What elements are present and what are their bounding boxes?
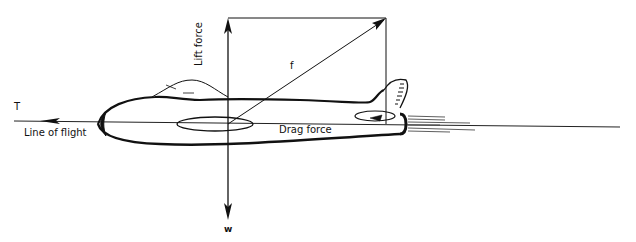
jet-exhaust xyxy=(408,116,475,132)
resultant-arrowhead-icon xyxy=(372,18,386,30)
lift-force-label: Lift force xyxy=(193,22,204,66)
line-of-flight-label: Line of flight xyxy=(24,127,87,138)
resultant-force-label: f xyxy=(290,60,294,71)
aircraft-force-diagram-graphic xyxy=(0,0,636,242)
lift-weight-vector xyxy=(224,18,232,220)
aircraft-silhouette xyxy=(98,79,408,144)
resultant-vector xyxy=(228,18,386,124)
drag-force-label: Drag force xyxy=(279,124,332,135)
force-diagram: T Line of flight Lift force f Drag force… xyxy=(0,0,636,242)
weight-label: w xyxy=(224,224,232,234)
thrust-label: T xyxy=(14,101,20,112)
